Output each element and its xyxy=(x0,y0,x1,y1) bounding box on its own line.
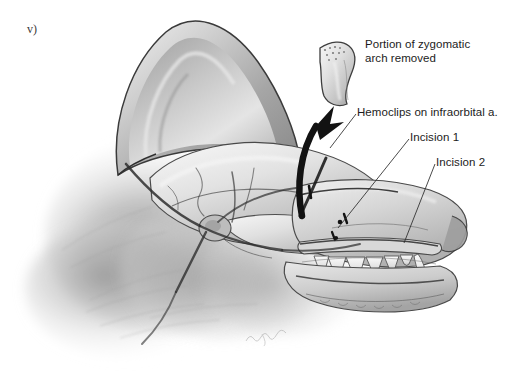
figure-marker: v) xyxy=(27,23,37,37)
removed-bone-fragment xyxy=(320,42,355,106)
surgical-illustration-figure: v) Portion of zygomatic arch removed Hem… xyxy=(0,0,526,382)
label-incision-1: Incision 1 xyxy=(410,131,459,145)
muzzle-maxilla xyxy=(292,180,467,267)
leader-line-hemoclips xyxy=(330,114,356,148)
label-portion-of-zygomatic-arch-removed: Portion of zygomatic arch removed xyxy=(365,38,470,65)
label-incision-2: Incision 2 xyxy=(436,156,485,170)
label-hemoclips-on-infraorbital-artery: Hemoclips on infraorbital a. xyxy=(357,106,498,120)
